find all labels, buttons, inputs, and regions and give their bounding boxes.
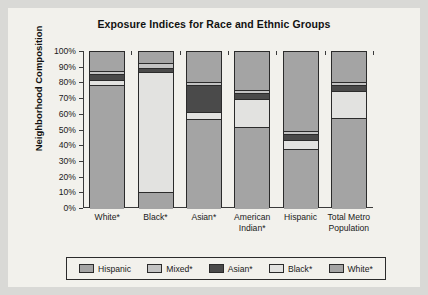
bar-segment-hispanic: [90, 85, 124, 209]
legend-label: Hispanic: [98, 264, 131, 274]
bar-segment-white: [235, 52, 269, 90]
x-tick-mark: [373, 51, 374, 55]
x-tick-label-line: Total Metro: [311, 212, 387, 223]
y-tick-label: 40%: [36, 140, 76, 150]
bar-segment-black: [332, 91, 366, 118]
bar-segment-black: [139, 72, 173, 191]
legend-item-white[interactable]: White*: [329, 264, 373, 274]
y-tick-mark: [79, 130, 83, 131]
y-tick-label: 70%: [36, 93, 76, 103]
legend-label: Mixed*: [166, 264, 192, 274]
y-tick-mark: [79, 67, 83, 68]
bar-segment-black: [235, 99, 269, 127]
legend-swatch: [329, 264, 344, 273]
x-tick-mark: [228, 51, 229, 55]
y-tick-mark: [79, 82, 83, 83]
legend-label: Black*: [288, 264, 312, 274]
legend-item-hispanic[interactable]: Hispanic: [79, 264, 131, 274]
x-tick-mark: [276, 51, 277, 55]
y-tick-label: 100%: [36, 46, 76, 56]
x-tick-label-line: Indian*: [214, 223, 290, 234]
legend-item-black[interactable]: Black*: [269, 264, 312, 274]
y-tick-mark: [79, 98, 83, 99]
bar-segment-hispanic: [332, 118, 366, 209]
bar-segment-white: [139, 52, 173, 63]
y-tick-label: 20%: [36, 172, 76, 182]
x-tick-mark: [83, 51, 84, 55]
screenshot-root: Exposure Indices for Race and Ethnic Gro…: [0, 0, 428, 295]
bar-3: [186, 51, 222, 208]
y-tick-mark: [79, 208, 83, 209]
y-tick-label: 60%: [36, 109, 76, 119]
y-tick-mark: [79, 192, 83, 193]
legend-item-mixed[interactable]: Mixed*: [147, 264, 192, 274]
bar-segment-black: [187, 112, 221, 120]
bar-segment-white: [90, 52, 124, 71]
y-tick-label: 10%: [36, 187, 76, 197]
bar-segment-white: [332, 52, 366, 82]
bar-segment-black: [284, 140, 318, 149]
y-tick-label: 50%: [36, 125, 76, 135]
x-tick-mark: [131, 51, 132, 55]
legend-item-asian[interactable]: Asian*: [209, 264, 253, 274]
x-tick-mark: [180, 51, 181, 55]
y-tick-mark: [79, 114, 83, 115]
bar-4: [234, 51, 270, 208]
bar-segment-asian: [187, 85, 221, 112]
x-tick-label-6: Total MetroPopulation: [311, 212, 387, 234]
bar-segment-white: [284, 52, 318, 131]
legend-label: White*: [348, 264, 373, 274]
plot-frame: [83, 51, 373, 208]
legend-swatch: [209, 264, 224, 273]
x-tick-label-line: Population: [311, 223, 387, 234]
legend-label: Asian*: [228, 264, 253, 274]
bar-2: [138, 51, 174, 208]
y-tick-label: 80%: [36, 77, 76, 87]
bar-segment-white: [187, 52, 221, 82]
bar-1: [89, 51, 125, 208]
bar-6: [331, 51, 367, 208]
x-tick-mark: [325, 51, 326, 55]
plot-area: 100%90%80%70%60%50%40%30%20%10%0% White*…: [83, 51, 373, 208]
bar-5: [283, 51, 319, 208]
legend-swatch: [79, 264, 94, 273]
chart-card: Exposure Indices for Race and Ethnic Gro…: [8, 8, 420, 287]
legend-swatch: [147, 264, 162, 273]
page-title: Exposure Indices for Race and Ethnic Gro…: [8, 18, 420, 30]
y-tick-label: 90%: [36, 62, 76, 72]
chart-legend: HispanicMixed*Asian*Black*White*: [66, 257, 386, 280]
legend-swatch: [269, 264, 284, 273]
y-tick-label: 30%: [36, 156, 76, 166]
y-tick-mark: [79, 145, 83, 146]
bar-segment-hispanic: [187, 119, 221, 208]
bar-segment-hispanic: [284, 149, 318, 209]
y-tick-mark: [79, 161, 83, 162]
bar-segment-hispanic: [235, 127, 269, 209]
bar-segment-hispanic: [139, 192, 173, 209]
y-tick-mark: [79, 177, 83, 178]
